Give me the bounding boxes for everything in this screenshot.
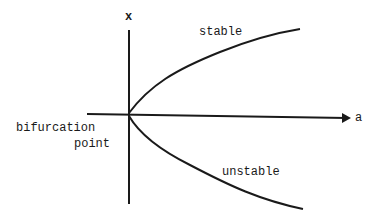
unstable-branch-label: unstable [222, 166, 280, 178]
vertical-axis-label: x [125, 11, 132, 23]
bifurcation-point-label-line2: point [74, 138, 110, 150]
bifurcation-point-label-line1: bifurcation [16, 122, 95, 134]
horizontal-axis-label: a [355, 112, 362, 124]
stable-branch-curve [129, 29, 300, 113]
bifurcation-diagram [0, 0, 376, 223]
stable-branch-label: stable [199, 26, 242, 38]
unstable-branch-curve [129, 116, 303, 209]
arrow-head-icon [342, 113, 351, 123]
a-axis-horizontal [87, 114, 347, 118]
